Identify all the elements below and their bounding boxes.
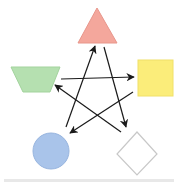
- arrow-square-to-circle: [70, 92, 133, 133]
- diagram-canvas: [0, 0, 178, 182]
- triangle-node: [78, 8, 117, 43]
- trapezoid-node: [11, 67, 60, 92]
- diamond-node: [117, 132, 157, 175]
- square-node: [138, 60, 173, 96]
- circle-node: [33, 133, 69, 169]
- clipped-caption: [4, 179, 174, 182]
- arrow-triangle-to-diamond: [104, 47, 126, 127]
- arrow-diamond-to-trapezoid: [55, 85, 121, 132]
- arrow-circle-to-triangle: [66, 46, 95, 127]
- arrow-trapezoid-to-square: [61, 77, 134, 79]
- pentagram-diagram: [0, 0, 178, 182]
